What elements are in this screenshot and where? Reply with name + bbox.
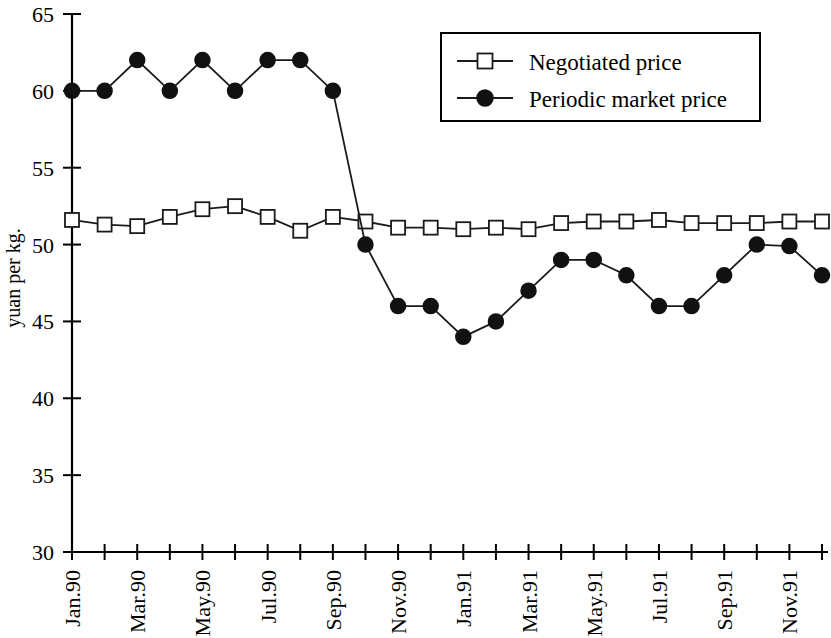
x-tick-label: Jul.91 <box>647 570 672 623</box>
data-point-marker <box>489 221 503 235</box>
y-axis-title: yuan per kg. <box>2 228 25 327</box>
data-point-marker <box>98 218 112 232</box>
data-point-marker <box>651 299 666 314</box>
x-tick-label: Jan.90 <box>60 570 85 627</box>
data-point-marker <box>424 221 438 235</box>
chart-container: 3035404550556065 Jan.90Mar.90May.90Jul.9… <box>0 0 831 638</box>
data-point-marker <box>521 283 536 298</box>
data-point-marker <box>750 216 764 230</box>
y-tick-label: 65 <box>32 2 54 27</box>
data-point-marker <box>554 216 568 230</box>
x-tick-label: Sep.90 <box>321 570 346 631</box>
data-point-marker <box>391 221 405 235</box>
data-point-marker <box>586 252 601 267</box>
data-point-marker <box>554 252 569 267</box>
x-axis: Jan.90Mar.90May.90Jul.90Sep.90Nov.90Jan.… <box>60 544 828 636</box>
x-tick-label: Mar.90 <box>125 570 150 633</box>
y-tick-label: 35 <box>32 463 54 488</box>
data-point-marker <box>685 216 699 230</box>
x-tick-label: Nov.90 <box>386 570 411 634</box>
data-point-marker <box>815 215 829 229</box>
data-point-marker <box>522 222 536 236</box>
data-point-marker <box>587 215 601 229</box>
data-point-marker <box>782 215 796 229</box>
series-polyline <box>72 206 822 231</box>
legend-label: Negotiated price <box>529 50 682 75</box>
data-point-marker <box>652 213 666 227</box>
data-point-marker <box>619 215 633 229</box>
data-point-marker <box>456 329 471 344</box>
data-point-marker <box>65 83 80 98</box>
data-point-marker <box>488 314 503 329</box>
data-point-marker <box>749 237 764 252</box>
data-point-marker <box>162 83 177 98</box>
data-point-marker <box>163 210 177 224</box>
legend-marker-filled-circle-icon <box>477 90 493 106</box>
data-point-marker <box>684 299 699 314</box>
x-tick-label: May.91 <box>582 570 607 636</box>
x-tick-label: May.90 <box>190 570 215 636</box>
data-point-marker <box>782 239 797 254</box>
data-point-marker <box>619 268 634 283</box>
data-point-marker <box>261 210 275 224</box>
x-tick-label: Jul.90 <box>256 570 281 623</box>
series-negotiated-price <box>65 199 829 238</box>
data-point-marker <box>130 219 144 233</box>
data-point-marker <box>260 53 275 68</box>
data-point-marker <box>717 268 732 283</box>
data-point-marker <box>97 83 112 98</box>
x-tick-label: Sep.91 <box>712 570 737 631</box>
data-point-marker <box>358 237 373 252</box>
data-point-marker <box>293 224 307 238</box>
chart-legend: Negotiated pricePeriodic market price <box>441 33 760 121</box>
x-tick-label: Jan.91 <box>451 570 476 627</box>
data-point-marker <box>456 222 470 236</box>
line-chart: 3035404550556065 Jan.90Mar.90May.90Jul.9… <box>0 0 831 638</box>
x-tick-label: Mar.91 <box>517 570 542 633</box>
data-point-marker <box>326 210 340 224</box>
y-tick-label: 50 <box>32 233 54 258</box>
y-tick-label: 55 <box>32 156 54 181</box>
x-tick-label: Nov.91 <box>777 570 802 634</box>
data-point-marker <box>717 216 731 230</box>
data-point-marker <box>391 299 406 314</box>
data-point-marker <box>228 83 243 98</box>
legend-marker-open-square-icon <box>478 54 493 69</box>
data-point-marker <box>423 299 438 314</box>
data-point-marker <box>325 83 340 98</box>
data-point-marker <box>228 199 242 213</box>
data-point-marker <box>195 202 209 216</box>
legend-label: Periodic market price <box>529 87 727 112</box>
data-point-marker <box>815 268 830 283</box>
y-tick-label: 30 <box>32 540 54 565</box>
data-point-marker <box>65 213 79 227</box>
data-point-marker <box>293 53 308 68</box>
y-tick-label: 45 <box>32 309 54 334</box>
data-point-marker <box>195 53 210 68</box>
data-point-marker <box>130 53 145 68</box>
y-tick-label: 60 <box>32 79 54 104</box>
y-tick-label: 40 <box>32 386 54 411</box>
y-axis-title-label: yuan per kg. <box>2 228 25 327</box>
